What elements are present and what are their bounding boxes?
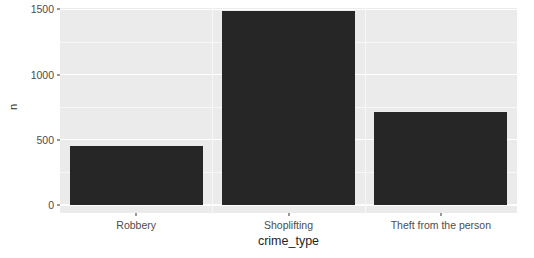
x-tick-mark (288, 213, 289, 216)
y-tick-label: 0 (48, 199, 54, 211)
x-tick-mark (136, 213, 137, 216)
x-tick-mark (440, 213, 441, 216)
y-tick-label: 500 (36, 134, 54, 146)
gridline-vertical-minor (212, 8, 213, 213)
bar (374, 112, 507, 205)
x-tick-label: Shoplifting (264, 219, 313, 231)
x-axis-title: crime_type (60, 234, 517, 248)
y-axis-title-label: n (7, 103, 19, 109)
y-tick-label: 1500 (31, 3, 54, 15)
bar (222, 11, 355, 205)
y-axis: 050010001500 (26, 0, 60, 258)
gridline-vertical-minor (365, 8, 366, 213)
x-tick-label: Robbery (116, 219, 156, 231)
bar (70, 146, 203, 205)
x-tick-label: Theft from the person (391, 219, 491, 231)
y-tick-label: 1000 (31, 69, 54, 81)
gridline-major (60, 9, 517, 10)
bar-chart: n 050010001500 RobberyShopliftingTheft f… (0, 0, 534, 258)
plot-panel (60, 8, 517, 213)
y-axis-title: n (0, 0, 26, 213)
x-axis-title-label: crime_type (258, 234, 319, 248)
